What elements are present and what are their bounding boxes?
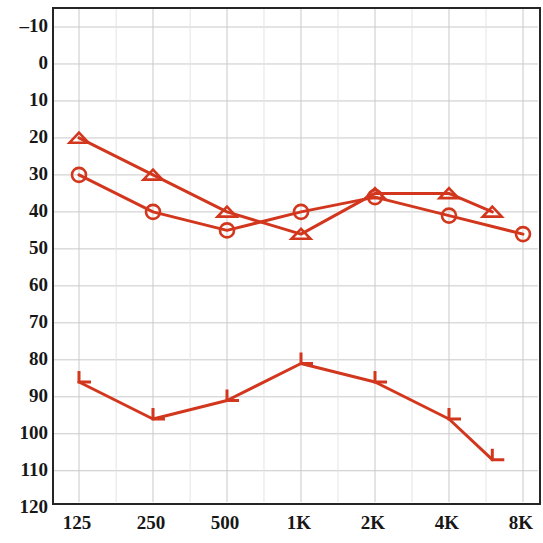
marker-bracket-l	[492, 449, 504, 460]
series-line-bone-conduction-masked-bracket	[79, 364, 492, 460]
marker-bracket-l	[375, 371, 387, 382]
x-tick-label: 1K	[287, 513, 311, 532]
y-tick-label: 70	[0, 311, 48, 330]
y-tick-label: 30	[0, 163, 48, 182]
y-tick-label: 50	[0, 237, 48, 256]
y-tick-label: 100	[0, 422, 48, 441]
y-tick-label: 90	[0, 385, 48, 404]
marker-bracket-l	[79, 371, 91, 382]
plot-area	[52, 7, 541, 505]
data-series-layer	[54, 9, 538, 502]
series-line-air-conduction-left-triangle	[79, 138, 492, 234]
x-tick-label: 8K	[509, 513, 533, 532]
x-tick-label: 125	[63, 513, 92, 532]
marker-bracket-l	[301, 353, 313, 364]
y-tick-label: 110	[0, 459, 48, 478]
audiogram-chart: –100102030405060708090100110120 12525050…	[0, 0, 543, 543]
y-tick-label: 120	[0, 496, 48, 515]
y-tick-label: 80	[0, 348, 48, 367]
marker-bracket-l	[449, 408, 461, 419]
y-tick-label: 10	[0, 89, 48, 108]
x-tick-label: 2K	[361, 513, 385, 532]
x-tick-label: 4K	[435, 513, 459, 532]
y-axis-labels: –100102030405060708090100110120	[0, 0, 48, 543]
y-tick-label: 20	[0, 126, 48, 145]
y-tick-label: 40	[0, 200, 48, 219]
x-tick-label: 500	[211, 513, 240, 532]
y-tick-label: 0	[0, 52, 48, 71]
x-tick-label: 250	[137, 513, 166, 532]
y-tick-label: 60	[0, 274, 48, 293]
y-tick-label: –10	[0, 16, 48, 35]
